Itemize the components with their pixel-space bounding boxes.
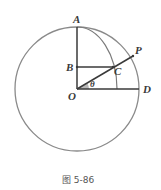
label-A: A: [72, 13, 80, 25]
label-P: P: [135, 44, 142, 56]
label-theta: θ: [90, 79, 95, 89]
label-D: D: [142, 83, 151, 95]
segment-OP: [77, 56, 133, 89]
figure-caption: 图 5-86: [62, 175, 95, 185]
geometry-figure: A B C P O D θ 图 5-86: [0, 0, 161, 190]
point-P: [132, 55, 134, 57]
point-B: [76, 66, 78, 68]
label-O: O: [68, 90, 76, 102]
inner-arc: [77, 27, 117, 89]
label-B: B: [65, 61, 73, 73]
label-C: C: [114, 65, 122, 77]
